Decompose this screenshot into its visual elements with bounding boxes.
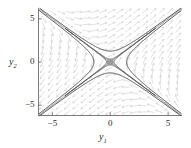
saddle-equilibrium-point <box>107 58 114 65</box>
y-tick-label: 5 <box>11 13 35 23</box>
x-axis-label: y1 <box>99 131 107 144</box>
x-tick-label: 5 <box>156 118 180 128</box>
phase-portrait-figure: y2 y1 −505−505 <box>0 0 191 148</box>
x-axis-label-subscript: 1 <box>103 137 106 144</box>
y-tick-label: 0 <box>11 56 35 66</box>
x-tick-label: 0 <box>98 118 122 128</box>
y-tick-label: −5 <box>11 99 35 109</box>
x-tick-label: −5 <box>40 118 64 128</box>
